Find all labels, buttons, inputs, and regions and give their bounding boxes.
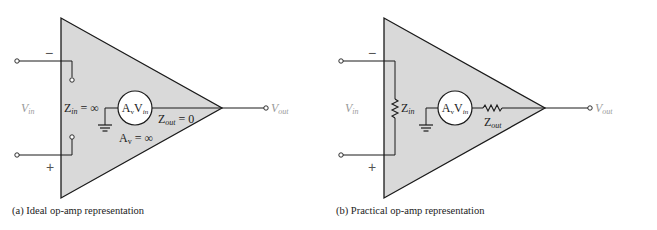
dependent-voltage-source: AvVin [438,91,472,125]
panel-ideal-opamp: − + Vin Zin = ∞ AvVin Vou [12,18,289,217]
zout-label: Zout = 0 [158,112,194,127]
caption-ideal: (a) Ideal op-amp representation [12,205,145,217]
plus-sign: + [46,159,54,175]
input-terminal-minus [339,59,343,63]
output-terminal [264,106,268,110]
dependent-voltage-source: AvVin [118,91,152,125]
input-terminal-plus [15,153,19,157]
vin-label: Vin [345,101,359,116]
caption-practical: (b) Practical op-amp representation [336,205,485,217]
av-label: Av = ∞ [119,131,153,146]
internal-terminal-plus [70,135,74,139]
vout-label: Vout [595,101,613,116]
vin-label: Vin [21,101,35,116]
input-terminal-plus [339,153,343,157]
zin-label: Zin = ∞ [64,101,99,116]
input-terminal-minus [15,59,19,63]
minus-sign: − [45,45,53,61]
plus-sign: + [368,159,376,175]
output-terminal [588,106,592,110]
panel-practical-opamp: − + Vin Zin AvVin Vout Zout (b) Practica… [336,18,613,217]
opamp-diagram: − + Vin Zin = ∞ AvVin Vou [0,0,657,230]
vout-label: Vout [271,101,289,116]
minus-sign: − [368,45,376,61]
internal-terminal-minus [70,78,74,82]
